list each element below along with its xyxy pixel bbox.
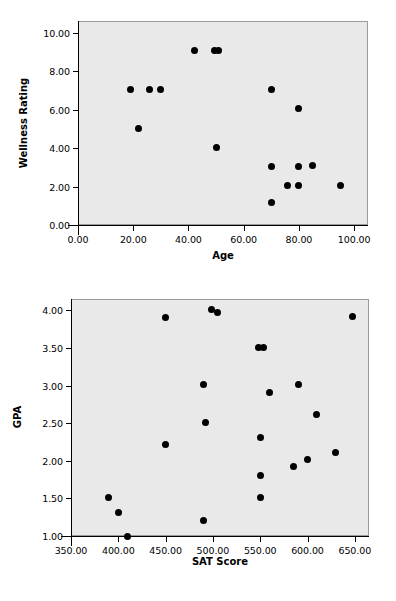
- y-tick-mark: [66, 310, 71, 311]
- x-tick-mark: [355, 537, 356, 542]
- y-tick-label: 2.50: [19, 418, 63, 429]
- x-tick-mark: [213, 537, 214, 542]
- y-axis-title: GPA: [12, 406, 23, 428]
- data-point: [295, 381, 302, 388]
- data-point: [268, 163, 275, 170]
- x-axis-line: [68, 225, 368, 226]
- x-tick-label: 0.00: [68, 234, 89, 245]
- x-tick-mark: [299, 226, 300, 231]
- x-tick-label: 60.00: [230, 234, 257, 245]
- y-tick-mark: [73, 71, 78, 72]
- y-tick-label: 4.00: [19, 305, 63, 316]
- data-point: [200, 517, 207, 524]
- y-tick-label: 6.00: [26, 104, 70, 115]
- x-tick-mark: [188, 226, 189, 231]
- x-tick-mark: [118, 537, 119, 542]
- y-tick-label: 1.00: [19, 531, 63, 542]
- data-point: [115, 509, 122, 516]
- y-tick-mark: [73, 110, 78, 111]
- x-tick-label: 450.00: [149, 545, 182, 556]
- y-tick-mark: [66, 498, 71, 499]
- y-tick-label: 3.50: [19, 342, 63, 353]
- x-tick-label: 20.00: [120, 234, 147, 245]
- x-tick-label: 500.00: [197, 545, 230, 556]
- x-tick-mark: [354, 226, 355, 231]
- y-tick-mark: [66, 386, 71, 387]
- x-tick-mark: [308, 537, 309, 542]
- x-tick-label: 650.00: [338, 545, 371, 556]
- wellness-rating-scatter-chart: 0.002.004.006.008.0010.000.0020.0040.006…: [0, 0, 396, 290]
- x-tick-label: 100.00: [338, 234, 371, 245]
- gpa-scatter-chart: 1.001.502.002.503.003.504.00350.00400.00…: [0, 290, 396, 601]
- data-point: [257, 494, 264, 501]
- data-point: [337, 182, 344, 189]
- y-tick-mark: [73, 33, 78, 34]
- data-point: [124, 533, 131, 540]
- y-tick-mark: [73, 187, 78, 188]
- x-tick-mark: [71, 537, 72, 542]
- x-tick-mark: [133, 226, 134, 231]
- y-tick-label: 2.00: [19, 455, 63, 466]
- data-point: [268, 86, 275, 93]
- data-point: [266, 389, 273, 396]
- y-tick-mark: [73, 148, 78, 149]
- x-tick-mark: [260, 537, 261, 542]
- data-point: [257, 434, 264, 441]
- data-point: [213, 144, 220, 151]
- x-axis-line: [61, 536, 369, 537]
- x-axis-title: Age: [212, 250, 234, 261]
- data-point: [202, 419, 209, 426]
- x-tick-mark: [166, 537, 167, 542]
- data-point: [257, 472, 264, 479]
- y-tick-mark: [66, 423, 71, 424]
- y-axis-title: Wellness Rating: [18, 78, 29, 169]
- x-tick-label: 400.00: [102, 545, 135, 556]
- y-tick-mark: [66, 461, 71, 462]
- x-tick-label: 40.00: [175, 234, 202, 245]
- x-tick-label: 600.00: [291, 545, 324, 556]
- x-tick-label: 550.00: [244, 545, 277, 556]
- data-point: [304, 456, 311, 463]
- y-tick-label: 8.00: [26, 66, 70, 77]
- x-tick-mark: [78, 226, 79, 231]
- y-tick-mark: [66, 348, 71, 349]
- x-tick-mark: [244, 226, 245, 231]
- y-tick-label: 0.00: [26, 220, 70, 231]
- data-point: [191, 47, 198, 54]
- gpa-plot-area: [71, 299, 369, 536]
- y-tick-label: 4.00: [26, 143, 70, 154]
- y-tick-label: 2.00: [26, 181, 70, 192]
- y-tick-label: 3.00: [19, 380, 63, 391]
- x-tick-label: 80.00: [286, 234, 313, 245]
- y-tick-label: 10.00: [26, 27, 70, 38]
- x-axis-title: SAT Score: [192, 556, 248, 567]
- y-axis-line: [78, 21, 79, 235]
- x-tick-label: 350.00: [55, 545, 88, 556]
- y-axis-line: [71, 299, 72, 546]
- wellness-plot-area: [78, 21, 368, 225]
- y-tick-label: 1.50: [19, 493, 63, 504]
